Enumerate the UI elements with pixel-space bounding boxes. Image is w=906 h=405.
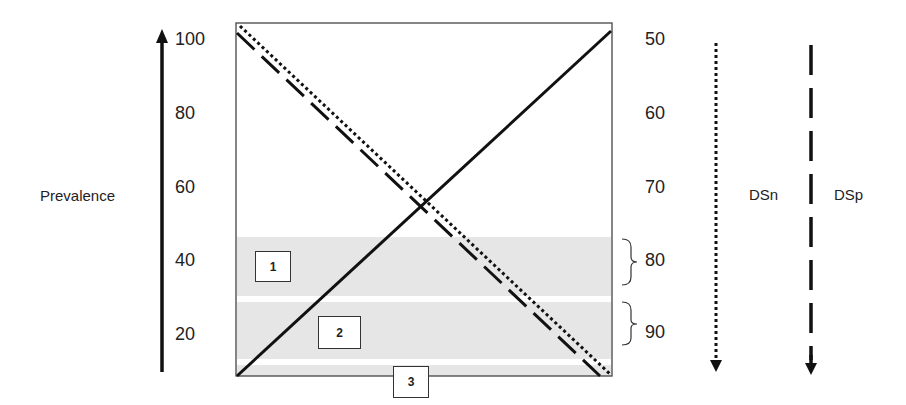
arrow-up-icon [156, 29, 168, 43]
brace-90 [622, 302, 637, 345]
region-label-3: 3 [393, 366, 429, 398]
right-tick-90: 90 [645, 322, 665, 343]
legend-dsn: DSn [749, 186, 778, 203]
left-tick-60: 60 [175, 177, 195, 198]
band-region-1 [237, 237, 611, 296]
right-tick-80: 80 [645, 250, 665, 271]
left-tick-20: 20 [175, 324, 195, 345]
left-tick-100: 100 [175, 29, 205, 50]
left-tick-40: 40 [175, 250, 195, 271]
right-tick-50: 50 [645, 29, 665, 50]
right-tick-60: 60 [645, 103, 665, 124]
left-axis-label: Prevalence [40, 187, 115, 204]
right-tick-70: 70 [645, 177, 665, 198]
band-region-2 [237, 302, 611, 359]
region-label-2: 2 [318, 316, 361, 349]
region-label-1: 1 [255, 251, 291, 282]
arrow-down-icon [805, 363, 817, 375]
arrow-down-icon [710, 360, 722, 372]
brace-80 [622, 239, 637, 285]
legend-dsp: DSp [834, 186, 863, 203]
left-tick-80: 80 [175, 103, 195, 124]
